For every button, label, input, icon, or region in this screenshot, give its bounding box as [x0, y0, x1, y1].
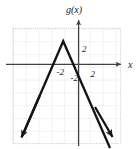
tick-label-x-negative: -2 — [57, 67, 65, 77]
graph-figure: g(x) x 2 -2 2 -2 — [0, 0, 138, 149]
coordinate-plane-svg: g(x) x 2 -2 2 -2 — [0, 0, 138, 149]
tick-label-y-positive: 2 — [82, 44, 87, 54]
tick-label-y-negative: -2 — [71, 73, 79, 83]
tick-label-x-positive: 2 — [91, 69, 96, 79]
function-label: g(x) — [66, 4, 83, 16]
x-axis-label: x — [127, 59, 133, 70]
grid — [13, 28, 121, 143]
